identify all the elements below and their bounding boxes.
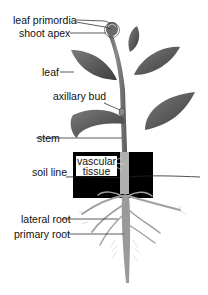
- primary-root: [122, 195, 130, 283]
- plant-illustration: [0, 0, 208, 295]
- label-soil-line: soil line: [32, 166, 67, 178]
- label-primary-root: primary root: [14, 228, 70, 240]
- label-axillary-bud: axillary bud: [53, 90, 106, 102]
- label-vascular-line2: tissue: [77, 166, 116, 176]
- leaf-middle-right: [145, 92, 195, 130]
- leaf-lower-left: [71, 110, 124, 138]
- axillary-bud: [119, 108, 125, 116]
- label-leaf-primordia: leaf primordia: [13, 14, 77, 26]
- label-leaf: leaf: [42, 66, 59, 78]
- leaf-upper-right: [134, 47, 180, 75]
- leaf-upper-left: [71, 50, 117, 80]
- lateral-roots: [82, 192, 180, 245]
- plant-diagram: leaf primordia shoot apex leaf axillary …: [0, 0, 208, 295]
- label-shoot-apex: shoot apex: [19, 27, 70, 39]
- leaf-top-bud: [128, 26, 139, 52]
- label-lateral-root: lateral root: [21, 213, 71, 225]
- label-vascular-tissue: vascular tissue: [76, 156, 117, 176]
- label-stem: stem: [37, 132, 60, 144]
- root-hairs: [79, 206, 186, 261]
